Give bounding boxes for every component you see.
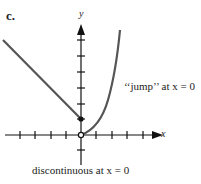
right-parabola-piece xyxy=(81,30,120,135)
filled-endpoint xyxy=(78,116,83,121)
plot-area xyxy=(0,0,201,184)
y-axis xyxy=(77,32,85,165)
x-arrow-icon xyxy=(152,131,163,139)
y-arrow-icon xyxy=(77,24,85,35)
open-endpoint xyxy=(78,132,83,137)
left-linear-piece xyxy=(3,40,81,119)
